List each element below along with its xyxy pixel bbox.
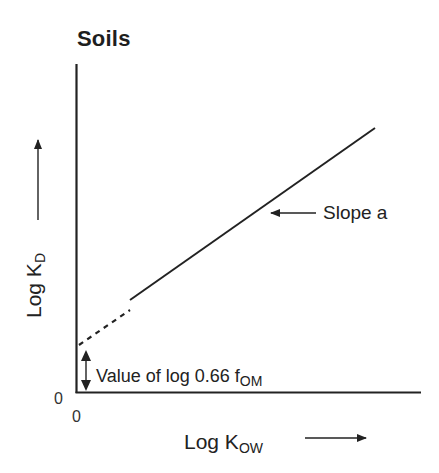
y-axis-label: Log KD	[22, 253, 48, 318]
intercept-label-main: Value of log 0.66 f	[96, 366, 240, 386]
intercept-label: Value of log 0.66 fOM	[96, 366, 262, 389]
x-axis-label-sub: OW	[239, 440, 263, 456]
x-axis-label: Log KOW	[184, 430, 263, 456]
y-axis-label-main: Log K	[22, 263, 45, 318]
intercept-label-sub: OM	[240, 373, 263, 389]
slope-label: Slope a	[323, 202, 387, 224]
regression-line-dashed	[79, 310, 130, 345]
y-axis-label-sub: D	[32, 253, 48, 263]
intercept-double-arrow-icon	[81, 350, 91, 391]
x-axis-label-main: Log K	[184, 430, 239, 453]
x-origin-tick: 0	[72, 408, 81, 426]
y-origin-tick: 0	[54, 390, 63, 408]
slope-label-text: Slope a	[323, 202, 387, 223]
plot-area	[0, 0, 439, 473]
